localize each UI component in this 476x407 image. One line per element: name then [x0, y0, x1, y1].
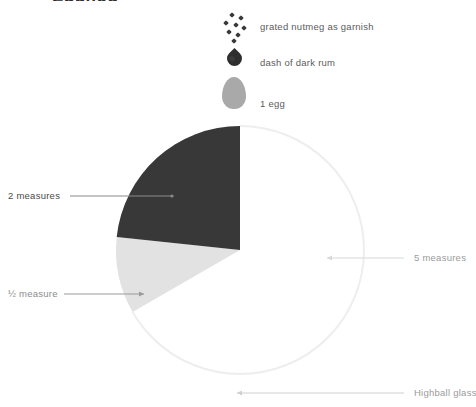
label-highball-glass: Highball glass — [414, 387, 476, 398]
label-two-measures: 2 measures — [8, 190, 60, 201]
label-five-measures: 5 measures — [414, 252, 466, 263]
label-half-measure: ½ measure — [8, 288, 58, 299]
diagram-page: Eggnog grated nutmeg as garnish dash of … — [0, 0, 476, 407]
cocktail-proportion-pie-chart — [0, 0, 476, 407]
leader-arrow-highball-glass — [237, 391, 242, 396]
leader-dot-two-measures — [170, 194, 173, 197]
